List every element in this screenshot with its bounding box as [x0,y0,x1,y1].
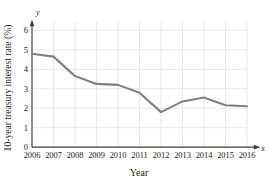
x-axis-tick-labels: 2006 2007 2008 2009 2010 2011 2012 2013 … [24,151,256,160]
x-tick-label: 2016 [239,151,256,160]
x-tick-label: 2011 [131,151,147,160]
x-tick-label: 2014 [196,151,214,160]
x-axis-title: Year [130,167,149,178]
y-tick-label: 5 [24,45,28,55]
y-tick-label: 4 [24,64,29,74]
x-axis-symbol: x [260,144,265,153]
y-tick-label: 3 [24,84,28,94]
x-tick-label: 2008 [67,151,84,160]
x-tick-label: 2012 [153,151,170,160]
x-tick-label: 2006 [24,151,41,160]
y-tick-label: 1 [24,123,28,133]
x-tick-label: 2013 [174,151,191,160]
y-axis-title: 10-year treasury interest rate (%) [2,25,14,152]
x-tick-label: 2007 [45,151,62,160]
x-axis [32,145,261,150]
x-tick-label: 2015 [217,151,234,160]
y-tick-label: 2 [24,103,28,113]
chart-figure: 6 5 4 3 2 1 0 2006 2007 2008 2009 2010 2… [0,0,273,181]
x-tick-label: 2009 [88,151,105,160]
y-tick-label: 6 [24,25,29,35]
grid-lines [32,22,247,147]
y-axis-symbol: y [35,8,40,17]
line-chart: 6 5 4 3 2 1 0 2006 2007 2008 2009 2010 2… [0,0,273,181]
y-axis-tick-labels: 6 5 4 3 2 1 0 [24,25,29,152]
x-tick-label: 2010 [110,151,127,160]
